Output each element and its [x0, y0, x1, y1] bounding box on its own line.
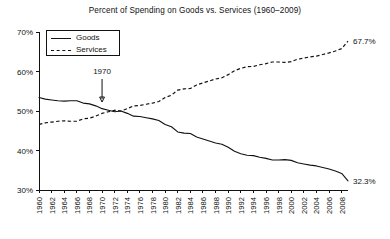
legend-swatch-solid-icon — [51, 35, 71, 42]
svg-text:30%: 30% — [17, 186, 33, 195]
svg-text:1962: 1962 — [48, 197, 57, 214]
svg-text:70%: 70% — [17, 28, 33, 37]
svg-text:40%: 40% — [17, 147, 33, 156]
chart-legend: Goods Services — [46, 30, 120, 56]
svg-text:1964: 1964 — [60, 197, 69, 214]
svg-text:1980: 1980 — [161, 197, 170, 214]
svg-text:1988: 1988 — [212, 197, 221, 214]
y-axis-ticks: 70%60%50%40%30% — [17, 28, 39, 195]
series-line-goods — [39, 98, 348, 181]
chart-container: Percent of Spending on Goods vs. Service… — [0, 0, 390, 239]
legend-label-services: Services — [76, 46, 107, 54]
svg-text:1970: 1970 — [98, 197, 107, 214]
svg-text:1990: 1990 — [224, 197, 233, 214]
svg-text:1966: 1966 — [73, 197, 82, 214]
svg-text:1992: 1992 — [237, 197, 246, 214]
svg-text:1998: 1998 — [275, 197, 284, 214]
svg-text:2006: 2006 — [325, 197, 334, 214]
legend-label-goods: Goods — [76, 34, 100, 42]
svg-text:67.7%: 67.7% — [353, 37, 376, 46]
endpoint-labels: 67.7%32.3% — [353, 37, 376, 186]
svg-text:1986: 1986 — [199, 197, 208, 214]
legend-item-services: Services — [51, 44, 119, 56]
svg-text:2004: 2004 — [312, 197, 321, 214]
svg-text:60%: 60% — [17, 68, 33, 77]
svg-text:1976: 1976 — [136, 197, 145, 214]
chart-annotations: 1970 — [93, 67, 111, 102]
legend-item-goods: Goods — [51, 32, 119, 44]
svg-text:2002: 2002 — [300, 197, 309, 214]
svg-text:1960: 1960 — [35, 197, 44, 214]
svg-text:1968: 1968 — [85, 197, 94, 214]
svg-text:1982: 1982 — [174, 197, 183, 214]
svg-text:2000: 2000 — [287, 197, 296, 214]
svg-text:50%: 50% — [17, 107, 33, 116]
svg-text:2008: 2008 — [338, 197, 347, 214]
svg-text:1970: 1970 — [93, 67, 111, 76]
svg-text:1978: 1978 — [149, 197, 158, 214]
x-axis-ticks: 1960196219641966196819701972197419761978… — [35, 190, 347, 214]
svg-text:32.3%: 32.3% — [353, 177, 376, 186]
svg-text:1994: 1994 — [249, 197, 258, 214]
svg-text:1996: 1996 — [262, 197, 271, 214]
legend-swatch-dashed-icon — [51, 47, 71, 54]
svg-text:1972: 1972 — [111, 197, 120, 214]
svg-text:1974: 1974 — [123, 197, 132, 214]
svg-text:1984: 1984 — [186, 197, 195, 214]
